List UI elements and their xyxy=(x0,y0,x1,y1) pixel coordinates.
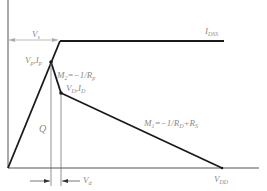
label-vp-ip: Vp,Ip xyxy=(25,56,42,66)
label-vd-width: Vd xyxy=(83,176,92,186)
label-idss: IDSS xyxy=(205,27,218,37)
vd-arrow-left-icon xyxy=(62,179,68,183)
vs-arrow-left-icon xyxy=(9,38,15,42)
iv-characteristic-diagram: Vs IDSS Vp,Ip M2=−1/Rp VD,ID Q M1=−1/RD+… xyxy=(0,0,267,191)
operating-point xyxy=(59,91,63,95)
label-vd-id: VD,ID xyxy=(66,84,85,94)
vdd-point xyxy=(221,167,224,170)
peak-point xyxy=(49,60,53,64)
vs-arrow-right-icon xyxy=(52,38,58,42)
label-vdd: VDD xyxy=(214,175,228,185)
label-vs: Vs xyxy=(32,30,40,40)
label-q: Q xyxy=(39,124,46,134)
m1-load-line xyxy=(61,93,222,168)
label-m1: M1=−1/RD+RS xyxy=(144,119,198,129)
diagram-canvas xyxy=(0,0,267,191)
label-m2: M2=−1/Rp xyxy=(57,71,95,81)
vd-arrow-right-icon xyxy=(44,179,50,183)
